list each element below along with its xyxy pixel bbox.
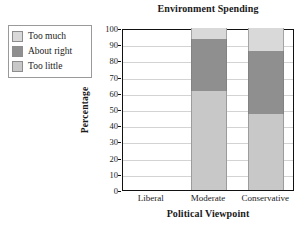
bar-segment[interactable]	[191, 91, 227, 190]
y-tick-label: 90	[96, 41, 118, 50]
y-tick-mark	[118, 61, 121, 62]
y-tick-mark	[118, 175, 121, 176]
y-tick-label: 10	[96, 170, 118, 179]
y-tick-mark	[118, 191, 121, 192]
bar-segment[interactable]	[191, 28, 227, 39]
legend-swatch-about-right	[12, 46, 23, 57]
y-tick-mark	[118, 94, 121, 95]
bar-stack[interactable]	[191, 28, 227, 190]
y-tick-label: 100	[96, 25, 118, 34]
y-tick-label: 30	[96, 138, 118, 147]
y-tick-mark	[118, 29, 121, 30]
y-axis-tick-labels: 0102030405060708090100	[96, 29, 118, 191]
chart-title: Environment Spending	[118, 3, 298, 14]
y-tick-mark	[118, 78, 121, 79]
bar-segment[interactable]	[248, 51, 284, 114]
plot-area	[122, 29, 294, 191]
legend-item-too-little: Too little	[12, 59, 88, 74]
y-tick-label: 50	[96, 106, 118, 115]
bar-stack[interactable]	[248, 28, 284, 190]
legend-swatch-too-much	[12, 31, 23, 42]
bar-segment[interactable]	[248, 114, 284, 190]
x-tick-label: Liberal	[138, 193, 164, 203]
bar-stack[interactable]	[134, 28, 170, 190]
y-tick-mark	[118, 110, 121, 111]
legend-label-too-much: Too much	[28, 31, 66, 42]
legend-label-about-right: About right	[28, 46, 72, 57]
y-axis-title: Percentage	[78, 29, 92, 191]
bar-segment[interactable]	[191, 39, 227, 91]
y-tick-mark	[118, 142, 121, 143]
y-axis-title-text: Percentage	[80, 87, 90, 134]
legend-item-about-right: About right	[12, 44, 88, 59]
y-tick-mark	[118, 126, 121, 127]
y-tick-label: 20	[96, 154, 118, 163]
y-tick-label: 70	[96, 73, 118, 82]
y-tick-mark	[118, 159, 121, 160]
x-axis-tick-labels: LiberalModerateConservative	[122, 193, 294, 207]
y-tick-label: 60	[96, 89, 118, 98]
x-tick-label: Conservative	[242, 193, 290, 203]
legend-swatch-too-little	[12, 61, 23, 72]
bar-segment[interactable]	[248, 28, 284, 51]
legend-label-too-little: Too little	[28, 61, 62, 72]
y-tick-label: 0	[96, 187, 118, 196]
x-tick-label: Moderate	[191, 193, 225, 203]
y-tick-mark	[118, 45, 121, 46]
y-tick-label: 80	[96, 57, 118, 66]
legend-item-too-much: Too much	[12, 29, 88, 44]
chart-figure: Environment Spending Too much About righ…	[0, 0, 306, 235]
x-axis-title: Political Viewpoint	[122, 208, 294, 219]
y-tick-label: 40	[96, 122, 118, 131]
